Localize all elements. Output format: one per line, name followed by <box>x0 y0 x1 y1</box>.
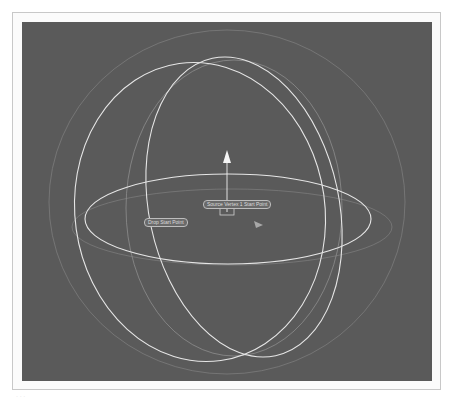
drop-point-label[interactable]: Drop Start Point <box>144 218 188 227</box>
source-point-label[interactable]: Source Vertex 1 Start Point <box>203 200 271 209</box>
up-arrow-icon <box>223 150 231 163</box>
cone-marker-icon <box>254 221 263 228</box>
vertical-ring-a <box>55 46 344 378</box>
horizontal-ring <box>85 174 371 264</box>
3d-viewport[interactable]: Source Vertex 1 Start Point Drop Start P… <box>22 22 432 381</box>
caption-text: · · · <box>16 393 25 399</box>
